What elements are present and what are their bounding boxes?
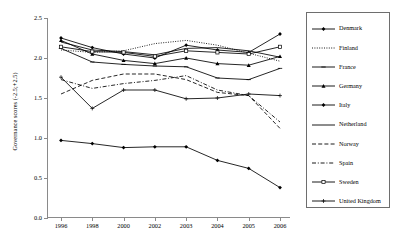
y-tick-label: 1.0 [34,135,42,141]
series-norway [61,74,280,128]
data-point-marker [322,199,326,203]
data-point-marker [322,27,326,31]
data-point-marker [322,180,325,183]
legend-item-label: Germany [339,83,362,89]
data-point-marker [90,46,94,50]
legend-item-germany[interactable]: Germany [307,77,389,96]
legend-item-netherland[interactable]: Netherland [307,115,389,134]
chart-legend: DenmarkFinlandFranceGermanyItalyNetherla… [306,12,390,208]
data-point-marker [247,52,250,55]
legend-line-sample [311,43,336,53]
y-tick-label: 1.5 [34,95,42,101]
legend-item-spain[interactable]: Spain [307,153,389,172]
legend-item-label: Denmark [339,25,362,31]
legend-line-sample [311,24,336,34]
data-point-marker [184,145,188,149]
data-point-marker [278,54,282,58]
data-point-marker [278,186,282,190]
x-tick-label: 2006 [274,223,287,229]
x-tick-label: 1996 [55,223,68,229]
legend-item-label: Finland [339,45,358,51]
plot-area: 0.00.51.01.52.02.5 199619982000200220032… [47,18,290,218]
legend-line-sample [311,81,336,91]
series-line [61,140,280,187]
data-point-marker [216,51,219,54]
legend-item-label: United Kingdom [339,198,381,204]
data-point-marker [278,45,281,48]
y-tick-label: 2.0 [34,55,42,61]
legend-line-sample [311,158,336,168]
legend-item-label: Netherland [339,121,367,127]
series-spain [61,76,280,122]
data-point-marker [278,32,282,36]
data-point-marker [59,139,63,143]
x-tick-label: 2000 [117,223,130,229]
legend-item-label: Norway [339,141,359,147]
legend-line-sample [311,196,336,206]
data-point-marker [90,142,94,146]
legend-line-sample [311,100,336,110]
data-point-marker [216,159,220,163]
legend-line-sample [311,139,336,149]
legend-line-sample [311,120,336,130]
legend-item-label: Italy [339,102,350,108]
legend-item-finland[interactable]: Finland [307,38,389,57]
series-line [61,76,280,122]
data-point-marker [184,43,188,47]
data-point-marker [185,49,188,52]
data-point-marker [91,50,94,53]
series-line [61,74,280,128]
data-point-marker [122,146,126,150]
data-point-marker [153,88,157,92]
data-point-marker [122,51,125,54]
legend-item-label: Spain [339,160,353,166]
legend-item-italy[interactable]: Italy [307,96,389,115]
data-point-marker [153,55,156,58]
y-tick-label: 0.0 [34,215,42,221]
data-point-marker [278,94,282,98]
series-italy [59,139,282,190]
legend-item-denmark[interactable]: Denmark [307,19,389,38]
y-tick-label: 2.5 [34,15,42,21]
legend-item-label: France [339,64,356,70]
x-tick-label: 2003 [180,223,193,229]
data-point-marker [322,103,326,107]
legend-item-norway[interactable]: Norway [307,134,389,153]
legend-item-sweden[interactable]: Sweden [307,173,389,192]
data-point-marker [153,145,157,149]
data-point-marker [184,97,188,101]
x-tick-label: 2005 [242,223,255,229]
y-tick [44,218,48,219]
legend-item-label: Sweden [339,179,359,185]
data-point-marker [247,167,251,171]
data-point-marker [122,88,126,92]
legend-line-sample [311,177,336,187]
legend-item-united-kingdom[interactable]: United Kingdom [307,192,389,211]
x-tick-label: 2002 [149,223,162,229]
legend-line-sample [311,62,336,72]
y-tick-label: 0.5 [34,175,42,181]
data-point-marker [59,38,63,42]
data-point-marker [59,45,62,48]
legend-item-france[interactable]: France [307,57,389,76]
data-point-marker [215,96,219,100]
x-tick-label: 1998 [86,223,99,229]
series-lines [47,18,290,218]
chart-page: Governance scores (-2.5;+2.5) 0.00.51.01… [0,0,397,250]
y-axis-title: Governance scores (-2.5;+2.5) [11,22,18,202]
series-line [61,77,280,108]
x-tick-label: 2004 [211,223,224,229]
